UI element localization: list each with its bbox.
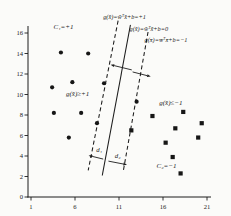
annotation-class2-label: C₂=−1 — [156, 162, 176, 170]
data-point-square — [129, 128, 133, 132]
annotation-region-plus-label: g(x̄)≥+1 — [66, 90, 89, 98]
data-point-square — [179, 171, 183, 175]
d1-arrow — [92, 156, 103, 159]
annotation-class1-label: C₁=+1 — [54, 23, 74, 31]
data-point-square — [164, 141, 168, 145]
data-point-square — [171, 155, 175, 159]
y-tick-label: 12 — [16, 70, 23, 77]
data-point-circle — [79, 111, 83, 115]
data-point-square — [173, 126, 177, 130]
margin-width-left-arrow-head — [111, 64, 115, 67]
x-tick-label: 11 — [116, 203, 122, 210]
data-point-square — [196, 135, 200, 139]
annotation-d2-label: d₂ — [115, 152, 121, 159]
data-point-circle — [50, 85, 54, 89]
data-point-square — [150, 114, 154, 118]
data-point-square — [200, 121, 204, 125]
data-point-circle — [95, 121, 99, 125]
data-point-circle — [86, 51, 90, 55]
y-tick-label: 14 — [16, 50, 23, 57]
scatter-plot-canvas: 024681012141616111621C₁=+1g(x̄)=w̄ᵀx̄+b=… — [0, 0, 231, 216]
annotation-region-minus-label: g(x̄)≤−1 — [159, 99, 182, 107]
data-point-square — [181, 110, 185, 114]
d2-arrow — [108, 161, 123, 164]
annotation-equation-minus-one: g(x̄)=w̄ᵀx̄+b=−1 — [145, 36, 188, 44]
y-tick-label: 10 — [16, 91, 23, 98]
annotation-equation-plus-one: g(x̄)=w̄ᵀx̄+b=+1 — [103, 13, 146, 21]
x-tick-label: 21 — [204, 203, 211, 210]
y-tick-label: 2 — [20, 173, 23, 180]
annotation-d1-label: d₁ — [96, 146, 102, 153]
svm-margin-figure: 024681012141616111621C₁=+1g(x̄)=w̄ᵀx̄+b=… — [0, 0, 231, 216]
y-tick-label: 6 — [20, 132, 24, 139]
data-point-circle — [70, 80, 74, 84]
y-tick-label: 4 — [20, 152, 24, 159]
x-tick-label: 6 — [73, 203, 77, 210]
y-tick-label: 0 — [20, 193, 24, 200]
data-point-circle — [59, 50, 63, 54]
margin-width-right-arrow-head — [147, 74, 151, 77]
y-tick-label: 16 — [16, 29, 23, 36]
data-point-circle — [135, 100, 139, 104]
x-tick-label: 16 — [160, 203, 167, 210]
data-point-circle — [52, 111, 56, 115]
margin-line-plus-one — [88, 21, 118, 171]
data-point-circle — [102, 81, 106, 85]
x-tick-label: 1 — [29, 203, 32, 210]
y-tick-label: 8 — [20, 111, 24, 118]
annotation-equation-zero: g(x̄)=w̄ᵀx̄+b=0 — [130, 25, 169, 33]
data-point-circle — [67, 135, 71, 139]
